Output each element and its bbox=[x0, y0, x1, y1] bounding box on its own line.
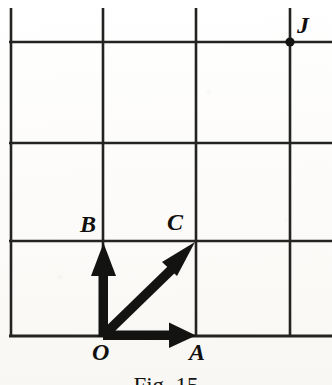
grid-lines bbox=[9, 8, 332, 337]
vector-ob-arrowhead bbox=[91, 243, 116, 276]
point-label-o: O bbox=[92, 340, 109, 364]
point-label-j: J bbox=[297, 13, 309, 37]
figure-container: J B C O A Fig. 15 bbox=[0, 0, 332, 385]
point-j-dot bbox=[285, 37, 294, 46]
point-label-b: B bbox=[80, 212, 96, 236]
vector-oc-shaft bbox=[104, 268, 173, 335]
vector-oc bbox=[104, 242, 195, 335]
point-label-a: A bbox=[189, 340, 205, 364]
vector-diagram-canvas bbox=[0, 0, 332, 385]
point-label-c: C bbox=[167, 210, 183, 234]
point-j-marker bbox=[285, 37, 294, 46]
figure-caption: Fig. 15 bbox=[0, 374, 332, 385]
